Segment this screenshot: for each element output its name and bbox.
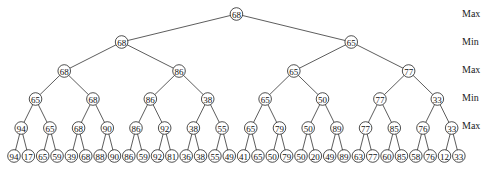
leaf-node: 41 bbox=[237, 150, 250, 163]
leaf-node: 39 bbox=[65, 150, 78, 163]
leaf-node: 12 bbox=[438, 150, 451, 163]
tree-node: 77 bbox=[374, 93, 387, 106]
tree-edge bbox=[122, 14, 237, 42]
tree-node: 33 bbox=[445, 122, 458, 135]
tree-node: 38 bbox=[187, 122, 200, 135]
tree-node: 65 bbox=[244, 122, 257, 135]
node-value: 59 bbox=[53, 152, 63, 162]
tree-node: 86 bbox=[130, 122, 143, 135]
tree-edge bbox=[64, 42, 121, 71]
leaf-node: 49 bbox=[323, 150, 336, 163]
node-value: 58 bbox=[411, 152, 421, 162]
leaf-node: 59 bbox=[51, 150, 64, 163]
node-value: 38 bbox=[203, 95, 213, 105]
leaf-node: 92 bbox=[151, 150, 164, 163]
node-value: 89 bbox=[340, 152, 350, 162]
node-value: 92 bbox=[153, 152, 162, 162]
node-value: 86 bbox=[124, 152, 134, 162]
tree-node: 68 bbox=[115, 36, 128, 49]
leaf-node: 79 bbox=[280, 150, 293, 163]
node-value: 68 bbox=[60, 67, 70, 77]
node-value: 60 bbox=[383, 152, 393, 162]
leaf-node: 81 bbox=[166, 150, 179, 163]
node-value: 86 bbox=[175, 67, 185, 77]
node-value: 68 bbox=[117, 38, 127, 48]
node-value: 38 bbox=[196, 152, 206, 162]
node-value: 85 bbox=[390, 124, 400, 134]
node-value: 41 bbox=[239, 152, 248, 162]
node-value: 65 bbox=[38, 152, 48, 162]
leaf-node: 58 bbox=[410, 150, 423, 163]
leaf-node: 85 bbox=[395, 150, 408, 163]
leaf-node: 49 bbox=[223, 150, 236, 163]
node-value: 68 bbox=[88, 95, 98, 105]
tree-node: 68 bbox=[58, 65, 71, 78]
node-value: 33 bbox=[454, 152, 464, 162]
tree-nodes: 6868656886657765688638655077339465689086… bbox=[8, 8, 465, 163]
node-value: 94 bbox=[17, 124, 27, 134]
node-value: 12 bbox=[440, 152, 449, 162]
tree-edge bbox=[122, 42, 179, 71]
node-value: 89 bbox=[332, 124, 342, 134]
tree-node: 55 bbox=[216, 122, 229, 135]
node-value: 76 bbox=[426, 152, 436, 162]
leaf-node: 68 bbox=[79, 150, 92, 163]
leaf-node: 38 bbox=[194, 150, 207, 163]
tree-node: 38 bbox=[201, 93, 214, 106]
tree-node: 68 bbox=[230, 8, 243, 21]
node-value: 33 bbox=[433, 95, 443, 105]
tree-node: 65 bbox=[259, 93, 272, 106]
leaf-node: 86 bbox=[123, 150, 136, 163]
node-value: 92 bbox=[160, 124, 169, 134]
leaf-node: 90 bbox=[108, 150, 121, 163]
tree-node: 89 bbox=[331, 122, 344, 135]
tree-node: 65 bbox=[288, 65, 301, 78]
leaf-node: 89 bbox=[338, 150, 351, 163]
node-value: 77 bbox=[375, 95, 385, 105]
tree-node: 92 bbox=[158, 122, 171, 135]
leaf-node: 77 bbox=[366, 150, 379, 163]
tree-node: 65 bbox=[44, 122, 57, 135]
node-value: 65 bbox=[45, 124, 55, 134]
node-value: 39 bbox=[67, 152, 77, 162]
tree-edges bbox=[14, 14, 459, 156]
level-label-max: Max bbox=[462, 65, 480, 75]
tree-node: 33 bbox=[431, 93, 444, 106]
node-value: 77 bbox=[368, 152, 378, 162]
node-value: 49 bbox=[325, 152, 335, 162]
leaf-node: 63 bbox=[352, 150, 365, 163]
node-value: 50 bbox=[297, 152, 307, 162]
node-value: 77 bbox=[404, 67, 414, 77]
node-value: 68 bbox=[232, 10, 242, 20]
node-value: 94 bbox=[10, 152, 20, 162]
node-value: 79 bbox=[282, 152, 292, 162]
node-value: 65 bbox=[261, 95, 271, 105]
leaf-node: 94 bbox=[8, 150, 21, 163]
node-value: 36 bbox=[182, 152, 192, 162]
node-value: 65 bbox=[253, 152, 263, 162]
leaf-node: 76 bbox=[424, 150, 437, 163]
leaf-node: 88 bbox=[94, 150, 107, 163]
tree-node: 65 bbox=[345, 36, 358, 49]
tree-node: 77 bbox=[359, 122, 372, 135]
tree-node: 68 bbox=[87, 93, 100, 106]
tree-node: 94 bbox=[15, 122, 28, 135]
tree-node: 77 bbox=[402, 65, 415, 78]
node-value: 88 bbox=[96, 152, 106, 162]
tree-edge bbox=[294, 42, 351, 71]
leaf-node: 20 bbox=[309, 150, 322, 163]
level-label-min: Min bbox=[462, 37, 479, 47]
node-value: 68 bbox=[74, 124, 84, 134]
node-value: 65 bbox=[246, 124, 256, 134]
node-value: 65 bbox=[347, 38, 357, 48]
node-value: 79 bbox=[275, 124, 285, 134]
tree-node: 86 bbox=[144, 93, 157, 106]
node-value: 20 bbox=[311, 152, 321, 162]
tree-node: 68 bbox=[72, 122, 85, 135]
level-label-min: Min bbox=[462, 93, 479, 103]
minimax-tree: 6868656886657765688638655077339465689086… bbox=[0, 0, 490, 174]
node-value: 17 bbox=[24, 152, 34, 162]
node-value: 86 bbox=[131, 124, 141, 134]
node-value: 55 bbox=[218, 124, 228, 134]
leaf-node: 65 bbox=[36, 150, 49, 163]
